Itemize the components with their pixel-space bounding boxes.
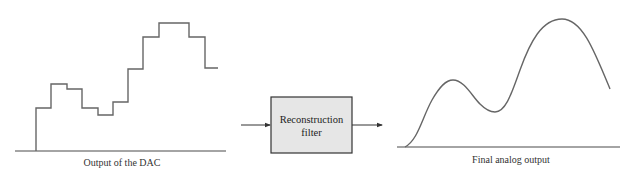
smooth-analog-signal bbox=[405, 19, 610, 147]
analog-output-caption: Final analog output bbox=[472, 154, 550, 165]
dac-reconstruction-diagram: Output of the DAC Reconstruction filter … bbox=[0, 0, 640, 180]
analog-output-panel: Final analog output bbox=[397, 19, 620, 165]
reconstruction-filter-block: Reconstruction filter bbox=[241, 97, 382, 153]
filter-box bbox=[271, 97, 352, 153]
staircase-signal bbox=[36, 23, 218, 151]
dac-output-panel: Output of the DAC bbox=[15, 23, 226, 168]
filter-label-line1: Reconstruction bbox=[280, 114, 344, 125]
filter-label-line2: filter bbox=[301, 127, 322, 138]
dac-output-caption: Output of the DAC bbox=[84, 157, 161, 168]
